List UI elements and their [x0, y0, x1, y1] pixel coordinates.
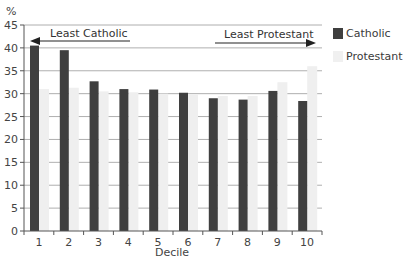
legend: Catholic Protestant: [333, 26, 403, 72]
annotation-least-protestant: Least Protestant: [215, 28, 316, 47]
svg-text:0: 0: [11, 225, 18, 238]
legend-item-protestant: Protestant: [333, 49, 403, 63]
svg-text:10: 10: [300, 236, 314, 249]
svg-text:Least Catholic: Least Catholic: [50, 27, 128, 40]
arrow-left-icon: [30, 37, 40, 45]
legend-item-catholic: Catholic: [333, 26, 403, 40]
svg-text:40: 40: [4, 42, 18, 55]
svg-text:25: 25: [4, 111, 18, 124]
svg-text:8: 8: [244, 236, 251, 249]
svg-text:9: 9: [274, 236, 281, 249]
legend-label-protestant: Protestant: [346, 50, 403, 63]
svg-text:10: 10: [4, 179, 18, 192]
svg-text:15: 15: [4, 156, 18, 169]
svg-text:35: 35: [4, 65, 18, 78]
svg-text:4: 4: [125, 236, 132, 249]
svg-text:2: 2: [65, 236, 72, 249]
svg-text:1: 1: [35, 236, 42, 249]
svg-text:30: 30: [4, 88, 18, 101]
svg-text:20: 20: [4, 133, 18, 146]
svg-text:5: 5: [11, 202, 18, 215]
y-axis-unit: %: [6, 5, 16, 18]
legend-label-catholic: Catholic: [346, 27, 391, 40]
svg-text:7: 7: [214, 236, 221, 249]
svg-text:3: 3: [95, 236, 102, 249]
svg-text:45: 45: [4, 19, 18, 32]
bars: [30, 46, 317, 231]
x-axis-label: Decile: [155, 246, 189, 259]
svg-text:Least Protestant: Least Protestant: [224, 28, 314, 41]
annotation-least-catholic: Least Catholic: [30, 27, 130, 45]
legend-swatch-protestant: [333, 51, 343, 62]
legend-swatch-catholic: [333, 28, 343, 39]
